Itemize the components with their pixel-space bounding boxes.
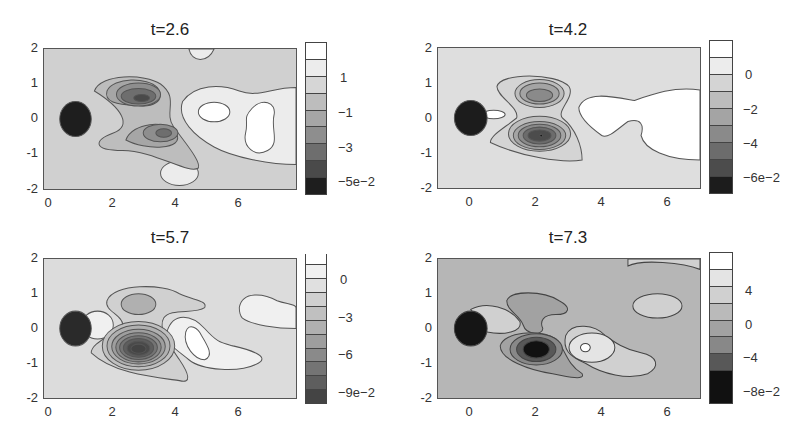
x-tick: 2	[525, 194, 545, 209]
panel-title: t=2.6	[40, 20, 300, 40]
contour-field	[44, 259, 296, 398]
y-tick: -1	[14, 145, 38, 160]
panel-title: t=4.2	[438, 20, 698, 40]
colorbar-label: 1	[340, 70, 347, 85]
y-tick: 2	[408, 250, 432, 265]
contour-field	[438, 259, 700, 398]
x-tick: 4	[165, 404, 185, 419]
panel-title: t=5.7	[40, 228, 300, 248]
x-tick: 0	[38, 195, 58, 210]
contour-plot-area	[43, 258, 297, 399]
y-tick: 1	[14, 75, 38, 90]
colorbar	[709, 252, 733, 404]
colorbar-label: −8e−2	[743, 384, 780, 399]
colorbar	[305, 254, 327, 404]
colorbar-label: −4	[743, 136, 758, 151]
x-tick: 6	[657, 194, 677, 209]
x-tick: 6	[228, 404, 248, 419]
colorbar-label: −9e−2	[338, 385, 375, 400]
colorbar-label: −3	[338, 310, 353, 325]
y-tick: -1	[408, 355, 432, 370]
colorbar-label: 4	[745, 283, 752, 298]
contour-plot-area	[437, 258, 701, 399]
x-tick: 0	[459, 404, 479, 419]
contour-field	[44, 49, 296, 189]
y-tick: 1	[408, 75, 432, 90]
contour-plot-area	[437, 47, 701, 189]
colorbar-label: 0	[340, 272, 347, 287]
x-tick: 4	[591, 194, 611, 209]
x-tick: 6	[228, 195, 248, 210]
colorbar	[709, 40, 733, 194]
x-tick: 0	[459, 194, 479, 209]
contour-plot-area	[43, 48, 297, 190]
x-tick: 2	[525, 404, 545, 419]
y-tick: 0	[408, 110, 432, 125]
y-tick: 0	[14, 110, 38, 125]
colorbar-label: −6e−2	[743, 170, 780, 185]
colorbar	[305, 42, 327, 195]
y-tick: 1	[14, 285, 38, 300]
colorbar-label: 0	[745, 67, 752, 82]
colorbar-label: −2	[743, 102, 758, 117]
y-tick: -2	[14, 181, 38, 196]
x-tick: 2	[102, 195, 122, 210]
y-tick: 2	[408, 40, 432, 55]
y-tick: -2	[408, 180, 432, 195]
y-tick: -2	[408, 390, 432, 405]
colorbar-label: −5e−2	[338, 174, 375, 189]
y-tick: -1	[408, 145, 432, 160]
colorbar-label: −3	[338, 140, 353, 155]
y-tick: -2	[14, 390, 38, 405]
y-tick: 2	[14, 250, 38, 265]
y-tick: 0	[14, 320, 38, 335]
y-tick: 2	[14, 40, 38, 55]
x-tick: 6	[657, 404, 677, 419]
colorbar-label: −6	[338, 347, 353, 362]
x-tick: 2	[102, 404, 122, 419]
x-tick: 0	[38, 404, 58, 419]
x-tick: 4	[591, 404, 611, 419]
y-tick: -1	[14, 355, 38, 370]
colorbar-label: −1	[338, 105, 353, 120]
colorbar-label: −4	[743, 350, 758, 365]
colorbar-label: 0	[745, 317, 752, 332]
y-tick: 1	[408, 285, 432, 300]
x-tick: 4	[165, 195, 185, 210]
y-tick: 0	[408, 320, 432, 335]
contour-field	[438, 48, 700, 188]
panel-title: t=7.3	[438, 228, 698, 248]
